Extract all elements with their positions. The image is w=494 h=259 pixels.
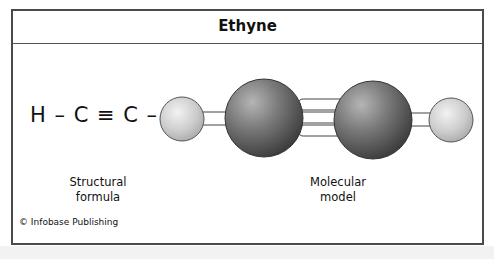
hydrogen-atom-left xyxy=(160,97,204,141)
molecular-model-illustration xyxy=(0,0,494,259)
hydrogen-atom-right xyxy=(429,98,473,142)
carbon-atom-left xyxy=(225,79,303,157)
carbon-atom-right xyxy=(334,81,412,159)
